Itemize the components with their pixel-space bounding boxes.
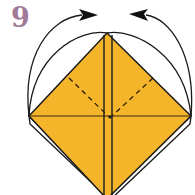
paper-diamond (29, 33, 191, 195)
origami-diagram (0, 0, 195, 195)
center-point (108, 115, 111, 118)
right-fold-arrowhead-icon (129, 9, 148, 21)
